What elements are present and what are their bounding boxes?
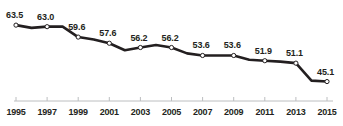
data-point-marker xyxy=(45,25,49,29)
x-axis-tick-label: 2005 xyxy=(159,107,185,117)
data-value-label: 63.5 xyxy=(6,10,23,20)
data-value-label: 59.6 xyxy=(68,22,85,32)
data-point-marker xyxy=(14,23,18,27)
data-point-marker xyxy=(232,53,236,57)
x-axis-tick-label: 1999 xyxy=(65,107,91,117)
data-point-marker xyxy=(263,59,267,63)
line-chart: 63.563.059.657.656.256.253.653.651.951.1… xyxy=(0,0,343,126)
x-axis-tick-label: 2001 xyxy=(96,107,122,117)
data-value-label: 51.1 xyxy=(286,48,303,58)
data-value-label: 56.2 xyxy=(162,33,179,43)
x-axis xyxy=(14,97,333,101)
x-axis-tick-label: 2009 xyxy=(221,107,247,117)
data-value-label: 63.0 xyxy=(37,12,54,22)
data-point-marker xyxy=(107,41,111,45)
data-point-marker xyxy=(138,45,142,49)
data-value-label: 53.6 xyxy=(224,40,241,50)
data-point-marker xyxy=(325,79,329,83)
data-value-label: 53.6 xyxy=(193,40,210,50)
data-value-label: 51.9 xyxy=(255,46,272,56)
data-point-marker xyxy=(76,35,80,39)
data-value-label: 56.2 xyxy=(130,33,147,43)
x-axis-tick-label: 2007 xyxy=(190,107,216,117)
data-value-label: 45.1 xyxy=(317,67,334,77)
data-value-label: 57.6 xyxy=(99,28,116,38)
data-point-marker xyxy=(294,61,298,65)
x-axis-tick-label: 2013 xyxy=(283,107,309,117)
x-axis-tick-label: 2015 xyxy=(314,107,340,117)
x-axis-tick-label: 2011 xyxy=(252,107,278,117)
data-point-marker xyxy=(169,45,173,49)
data-point-marker xyxy=(201,53,205,57)
x-axis-tick-label: 1995 xyxy=(3,107,29,117)
x-axis-tick-label: 1997 xyxy=(34,107,60,117)
x-axis-tick-label: 2003 xyxy=(127,107,153,117)
